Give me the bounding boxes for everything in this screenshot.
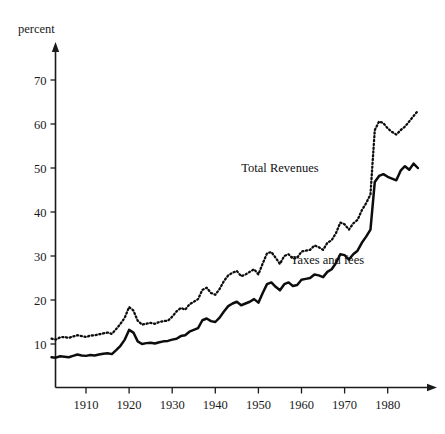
series-annotation-taxes-and-fees: Taxes and fees [291, 253, 365, 267]
y-tick-labels: 10203040506070 [34, 74, 47, 352]
x-tick-label: 1950 [246, 398, 271, 412]
x-tick-label: 1940 [203, 398, 228, 412]
y-tick-label: 60 [34, 118, 47, 132]
x-axis-group: 19101920193019401950196019701980 [56, 384, 438, 412]
y-tick-label: 30 [34, 250, 47, 264]
x-tick-label: 1920 [117, 398, 142, 412]
x-tick-marks [86, 388, 388, 394]
y-tick-label: 40 [34, 206, 47, 220]
revenue-percent-chart: 10203040506070 1910192019301940195019601… [0, 0, 445, 434]
x-tick-label: 1980 [375, 398, 400, 412]
series-line-total-revenues [52, 111, 418, 340]
x-tick-label: 1910 [74, 398, 99, 412]
y-tick-label: 20 [34, 294, 47, 308]
x-tick-label: 1930 [160, 398, 185, 412]
x-tick-labels: 19101920193019401950196019701980 [74, 398, 401, 412]
x-tick-label: 1970 [332, 398, 357, 412]
x-tick-label: 1960 [289, 398, 314, 412]
x-axis-arrowhead [427, 384, 437, 391]
y-axis-arrowhead [52, 42, 59, 52]
y-tick-label: 70 [34, 74, 47, 88]
y-axis-group: 10203040506070 [34, 42, 59, 388]
y-tick-label: 10 [34, 338, 47, 352]
series-annotation-total-revenues: Total Revenues [241, 161, 318, 175]
chart-canvas: 10203040506070 1910192019301940195019601… [0, 0, 445, 434]
y-tick-label: 50 [34, 162, 47, 176]
y-axis-title: percent [18, 22, 55, 36]
